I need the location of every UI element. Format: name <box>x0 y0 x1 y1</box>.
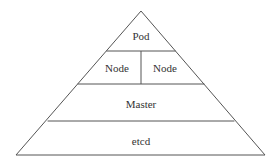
layer-pod-label: Pod <box>132 30 150 42</box>
layer-master-label: Master <box>126 98 157 110</box>
layer-etcd-label: etcd <box>132 135 151 147</box>
layer-node-left-label: Node <box>105 62 129 74</box>
pyramid-diagram: Pod Node Node Master etcd <box>0 0 277 166</box>
layer-node-right-label: Node <box>153 62 177 74</box>
